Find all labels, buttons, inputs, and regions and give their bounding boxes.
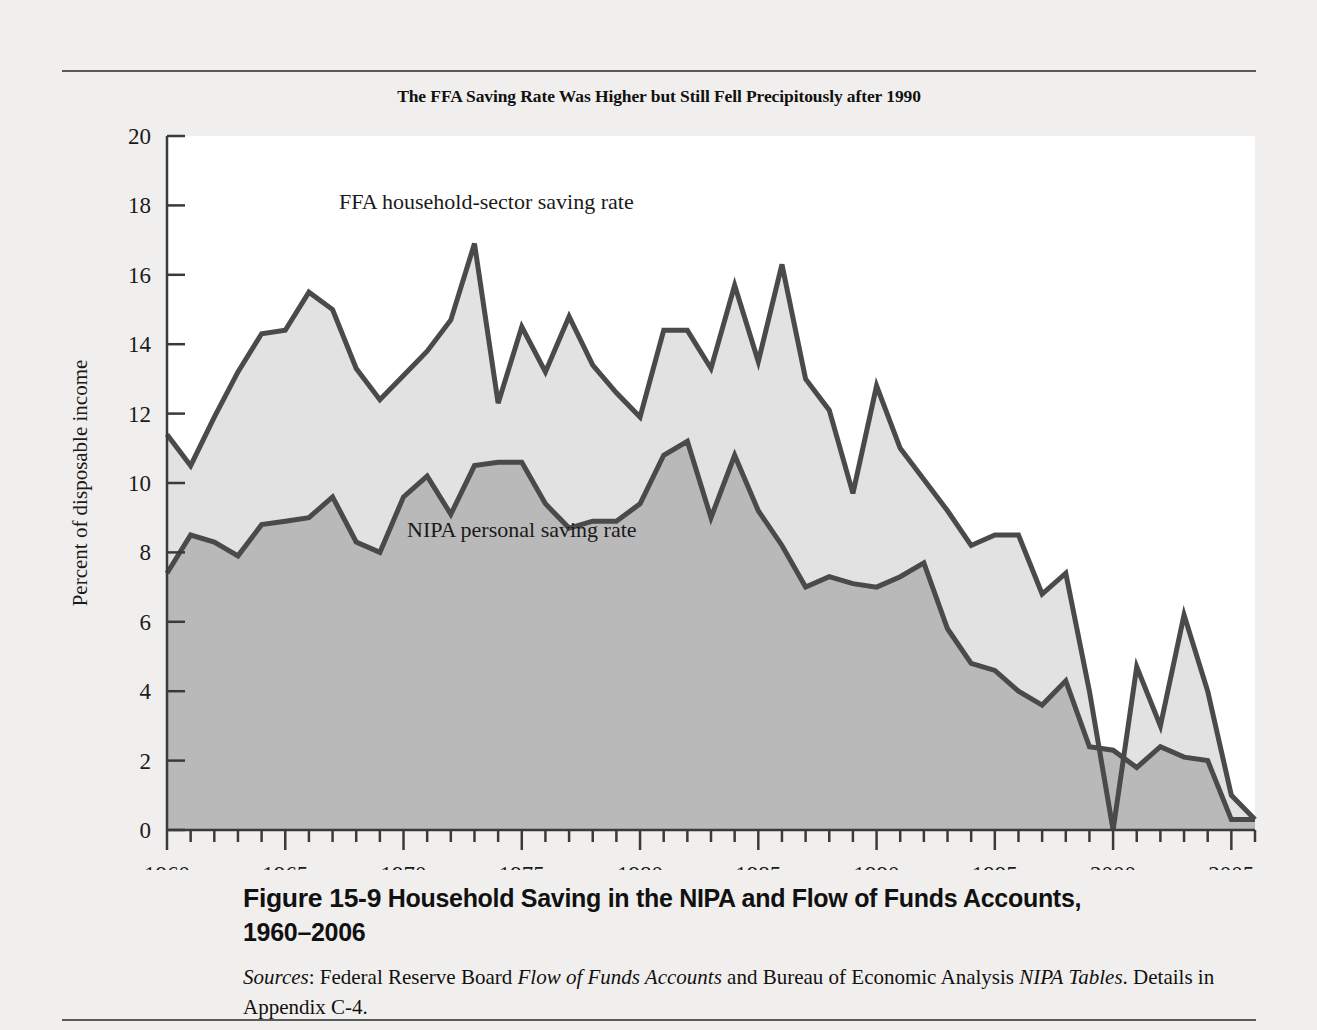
sources-note: Sources: Federal Reserve Board Flow of F… [243, 962, 1228, 1023]
bottom-divider-rule [62, 1019, 1256, 1021]
y-tick-label: 14 [128, 332, 152, 357]
y-axis-title: Percent of disposable income [68, 360, 92, 607]
x-tick-label: 1990 [854, 862, 900, 870]
sources-text-1: : Federal Reserve Board [309, 965, 518, 989]
y-tick-label: 4 [140, 679, 152, 704]
y-tick-label: 18 [128, 193, 151, 218]
y-tick-label: 12 [128, 402, 151, 427]
x-tick-label: 1980 [617, 862, 663, 870]
ffa-series-label: FFA household-sector saving rate [339, 189, 634, 214]
x-tick-label: 1995 [972, 862, 1018, 870]
x-tick-label: 1970 [381, 862, 427, 870]
plot-area: 02468101214161820 1960196519701975198019… [0, 110, 1300, 870]
y-tick-label: 10 [128, 471, 151, 496]
figure-container: The FFA Saving Rate Was Higher but Still… [0, 0, 1317, 1030]
y-tick-label: 8 [140, 540, 152, 565]
figure-caption-line-2: 1960–2006 [243, 918, 365, 946]
y-tick-label: 20 [128, 124, 151, 149]
chart-svg: 02468101214161820 1960196519701975198019… [0, 110, 1300, 870]
nipa-series-label: NIPA personal saving rate [407, 517, 637, 542]
chart-title: The FFA Saving Rate Was Higher but Still… [62, 86, 1256, 107]
figure-heading: Figure 15-9 Household Saving in the NIPA… [243, 882, 1243, 948]
figure-number: Figure 15-9 [243, 883, 381, 913]
x-tick-label: 1985 [735, 862, 781, 870]
x-tick-label: 1975 [499, 862, 545, 870]
figure-caption-line-1: Household Saving in the NIPA and Flow of… [388, 884, 1081, 912]
y-tick-label: 6 [140, 610, 152, 635]
top-divider-rule [62, 70, 1256, 72]
y-tick-label: 16 [128, 263, 151, 288]
sources-italic-1: Flow of Funds Accounts [517, 965, 721, 989]
y-tick-label: 0 [140, 818, 152, 843]
sources-italic-2: NIPA [1019, 965, 1063, 989]
sources-italic-3: Tables [1068, 965, 1122, 989]
figure-caption-block: Figure 15-9 Household Saving in the NIPA… [243, 882, 1243, 1023]
x-tick-label: 2000 [1090, 862, 1136, 870]
x-axis-ticks: 1960196519701975198019851990199520002005 [144, 830, 1255, 870]
sources-label: Sources [243, 965, 309, 989]
y-tick-label: 2 [140, 749, 152, 774]
sources-text-2: and Bureau of Economic Analysis [722, 965, 1019, 989]
x-tick-label: 2005 [1208, 862, 1254, 870]
y-axis-label: Percent of disposable income [68, 360, 92, 607]
x-tick-label: 1960 [144, 862, 190, 870]
x-tick-label: 1965 [262, 862, 308, 870]
